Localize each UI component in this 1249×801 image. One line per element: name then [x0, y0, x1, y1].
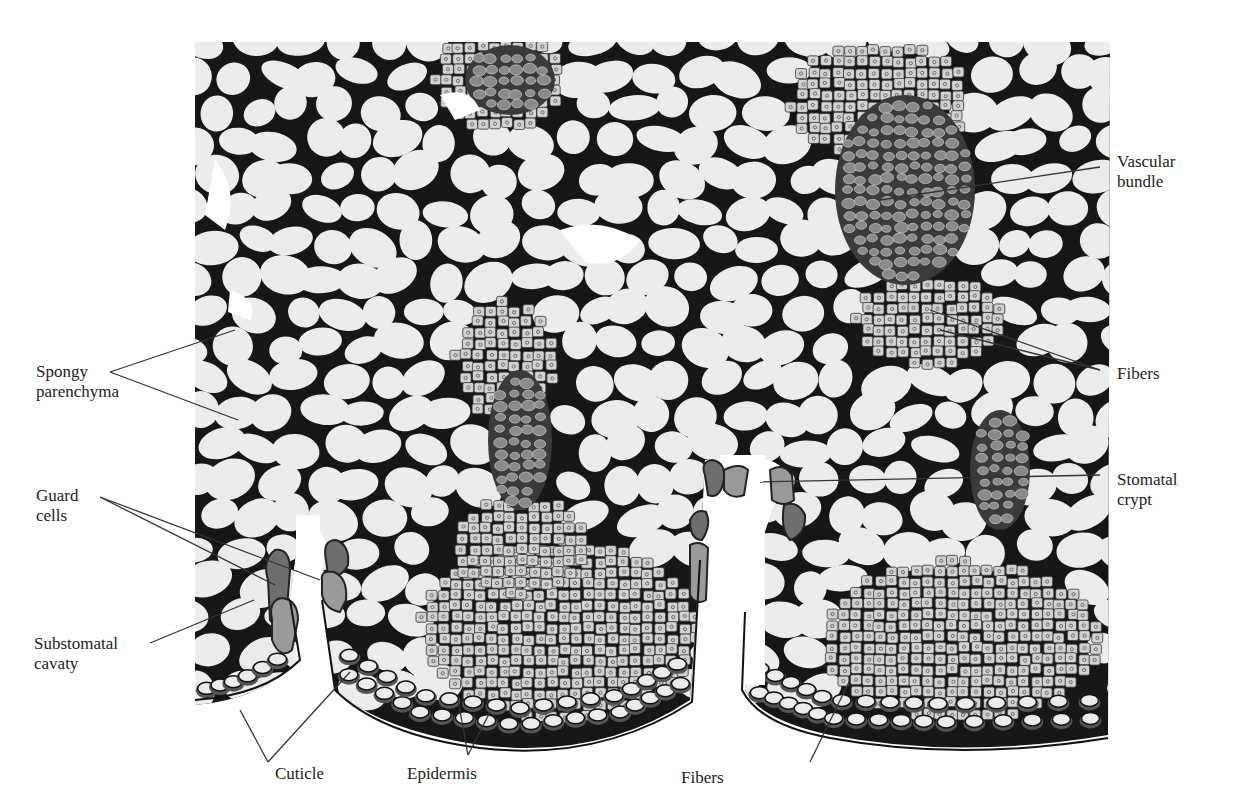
label-guard-cells: Guard cells [36, 486, 78, 526]
label-substomatal-cavaty: Substomatal cavaty [34, 634, 118, 674]
label-line: Substomatal [34, 634, 118, 654]
label-spongy-parenchyma: Spongy parenchyma [36, 362, 119, 402]
label-fibers-bottom: Fibers [681, 768, 724, 788]
label-line: parenchyma [36, 382, 119, 402]
label-line: Fibers [681, 768, 724, 788]
label-line: bundle [1117, 172, 1176, 192]
label-epidermis: Epidermis [407, 764, 477, 784]
label-cuticle: Cuticle [275, 764, 324, 784]
label-line: Vascular [1117, 152, 1176, 172]
leaf-cross-section-diagram: Vascular bundle Fibers Spongy parenchyma… [0, 0, 1249, 801]
illustration [0, 0, 1249, 801]
label-line: Guard [36, 486, 78, 506]
label-line: Fibers [1117, 364, 1160, 384]
label-line: Epidermis [407, 764, 477, 784]
label-line: Cuticle [275, 764, 324, 784]
label-vascular-bundle: Vascular bundle [1117, 152, 1176, 192]
label-fibers-right: Fibers [1117, 364, 1160, 384]
label-line: crypt [1117, 490, 1177, 510]
label-line: cells [36, 506, 78, 526]
label-stomatal-crypt: Stomatal crypt [1117, 470, 1177, 510]
label-line: Spongy [36, 362, 119, 382]
label-line: Stomatal [1117, 470, 1177, 490]
label-line: cavaty [34, 654, 118, 674]
